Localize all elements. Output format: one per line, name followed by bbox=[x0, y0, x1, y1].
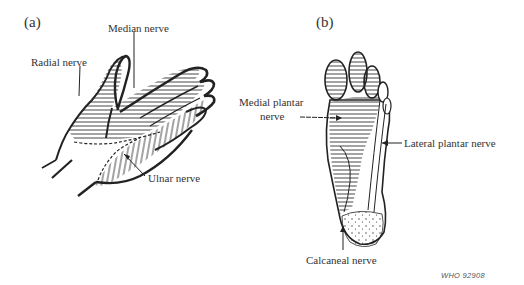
panel-label-b: (b) bbox=[316, 14, 334, 30]
nerve-distribution-figure: (a) (b) Median nerve Radial nerve Ulnar … bbox=[0, 0, 524, 285]
radial-leader bbox=[79, 66, 80, 96]
label-ulnar-nerve: Ulnar nerve bbox=[148, 172, 200, 184]
label-medial-plantar-nerve-line2: nerve bbox=[260, 110, 284, 122]
figure-credit: WHO 92908 bbox=[441, 271, 485, 280]
label-median-nerve: Median nerve bbox=[108, 22, 169, 34]
panel-label-a: (a) bbox=[24, 14, 41, 30]
label-calcaneal-nerve: Calcaneal nerve bbox=[306, 254, 377, 266]
label-medial-plantar-nerve-line1: Medial plantar bbox=[239, 96, 303, 108]
label-lateral-plantar-nerve: Lateral plantar nerve bbox=[404, 137, 496, 149]
foot-illustration bbox=[325, 52, 391, 247]
label-radial-nerve: Radial nerve bbox=[31, 56, 87, 68]
